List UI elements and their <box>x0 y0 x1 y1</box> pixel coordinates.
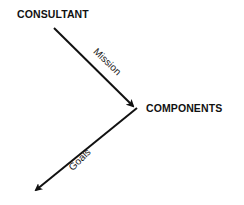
goals-edge: Goals <box>36 108 137 190</box>
goals-edge-label: Goals <box>66 146 92 172</box>
diagram-canvas: Mission Goals <box>0 0 244 205</box>
mission-edge-label: Mission <box>91 46 123 77</box>
mission-edge: Mission <box>54 28 133 106</box>
